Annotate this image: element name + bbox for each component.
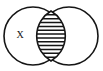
venn-diagram-canvas: X [0, 0, 103, 71]
venn-diagram-figure: X [0, 0, 103, 71]
region-label-x: X [16, 29, 24, 40]
